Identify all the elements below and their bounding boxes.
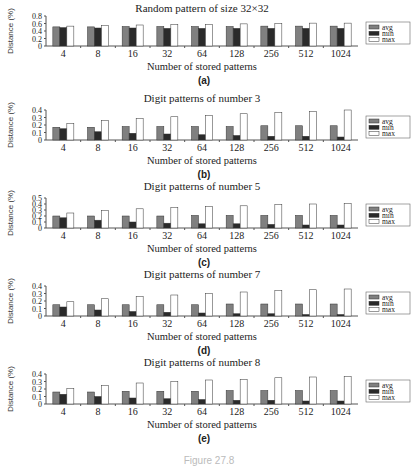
- y-axis-label: Distance (%): [6, 102, 15, 148]
- bar-avg: [330, 26, 337, 46]
- x-tick-label: 64: [197, 230, 207, 241]
- bar-max: [206, 24, 213, 46]
- bar-avg: [192, 215, 199, 228]
- bar-avg: [296, 391, 303, 405]
- bar-avg: [226, 304, 233, 316]
- legend-label: max: [382, 217, 395, 226]
- bar-min: [268, 136, 275, 140]
- x-tick-label: 32: [162, 48, 172, 59]
- bar-max: [171, 295, 178, 316]
- bar-avg: [53, 27, 60, 46]
- bar-avg: [192, 391, 199, 404]
- bar-max: [102, 299, 109, 316]
- bar-avg: [296, 26, 303, 46]
- bar-min: [268, 400, 275, 404]
- bar-max: [67, 388, 74, 404]
- x-tick-label: 64: [197, 318, 207, 329]
- legend: avgminmax: [366, 22, 410, 44]
- bar-min: [233, 314, 240, 316]
- bar-max: [136, 297, 143, 317]
- bar-avg: [88, 127, 95, 140]
- bar-max: [171, 117, 178, 140]
- legend-swatch-min: [369, 301, 379, 305]
- x-tick-label: 128: [229, 48, 244, 59]
- x-axis-label: Number of stored patterns: [147, 61, 257, 72]
- bar-max: [67, 213, 74, 228]
- x-tick-label: 64: [197, 142, 207, 153]
- bar-avg: [122, 127, 129, 141]
- y-axis-label: Distance (%): [6, 8, 15, 54]
- bar-min: [129, 133, 136, 140]
- bar-avg: [157, 391, 164, 404]
- bar-min: [129, 28, 136, 46]
- bar-avg: [296, 304, 303, 316]
- bar-min: [303, 315, 310, 317]
- bar-avg: [296, 215, 303, 228]
- bar-avg: [157, 305, 164, 316]
- x-tick-label: 8: [96, 142, 101, 153]
- x-axis-label: Number of stored patterns: [147, 419, 257, 430]
- bar-min: [60, 394, 67, 404]
- x-tick-label: 4: [61, 230, 66, 241]
- bar-max: [344, 289, 351, 316]
- bar-max: [206, 206, 213, 228]
- bar-max: [206, 115, 213, 140]
- bar-max: [102, 211, 109, 228]
- bar-max: [344, 110, 351, 140]
- y-tick-label: 0.4: [32, 370, 42, 379]
- bar-min: [95, 132, 102, 140]
- bar-avg: [296, 126, 303, 140]
- bar-avg: [192, 127, 199, 141]
- bar-avg: [88, 305, 95, 316]
- x-tick-label: 1024: [331, 406, 351, 417]
- x-tick-label: 8: [96, 318, 101, 329]
- x-tick-label: 8: [96, 48, 101, 59]
- x-tick-label: 128: [229, 230, 244, 241]
- bar-min: [303, 225, 310, 228]
- bar-max: [136, 383, 143, 404]
- x-tick-label: 1024: [331, 230, 351, 241]
- bar-avg: [157, 27, 164, 47]
- bar-avg: [261, 215, 268, 228]
- legend-swatch-max: [369, 396, 379, 400]
- bar-max: [240, 206, 247, 228]
- bar-avg: [261, 26, 268, 46]
- x-tick-label: 16: [128, 48, 138, 59]
- x-tick-label: 32: [162, 142, 172, 153]
- bar-min: [337, 137, 344, 140]
- bar-avg: [88, 216, 95, 228]
- legend-label: max: [382, 35, 395, 44]
- bar-min: [60, 307, 67, 316]
- x-tick-label: 4: [61, 48, 66, 59]
- x-axis-label: Number of stored patterns: [147, 155, 257, 166]
- bar-max: [136, 209, 143, 228]
- bar-min: [60, 218, 67, 228]
- bar-avg: [122, 27, 129, 47]
- bar-min: [129, 222, 136, 228]
- bar-max: [171, 208, 178, 228]
- bar-max: [102, 121, 109, 141]
- bar-max: [67, 124, 74, 141]
- x-tick-label: 16: [128, 142, 138, 153]
- x-tick-label: 128: [229, 142, 244, 153]
- x-tick-label: 256: [264, 406, 279, 417]
- bar-avg: [226, 391, 233, 405]
- bar-max: [171, 382, 178, 405]
- bar-max: [240, 292, 247, 316]
- x-tick-label: 4: [61, 318, 66, 329]
- bar-avg: [226, 27, 233, 47]
- figure-caption: Figure 27.8: [0, 455, 418, 466]
- x-tick-label: 16: [128, 318, 138, 329]
- bar-min: [233, 136, 240, 141]
- legend: avgminmax: [366, 292, 410, 314]
- bar-min: [164, 223, 171, 228]
- bar-min: [164, 312, 171, 316]
- legend-swatch-max: [369, 308, 379, 312]
- bar-max: [310, 112, 317, 141]
- y-tick-label: 0.8: [32, 12, 42, 21]
- bar-avg: [192, 305, 199, 316]
- legend-swatch-max: [369, 220, 379, 224]
- bar-max: [344, 376, 351, 404]
- legend-label: max: [382, 305, 395, 314]
- bar-chart-panel: Random pattern of size 32×3200.20.40.60.…: [0, 0, 418, 90]
